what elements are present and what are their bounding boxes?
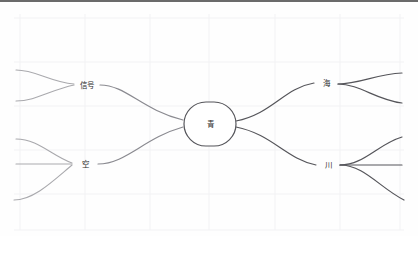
- node-signal[interactable]: 信号: [80, 80, 94, 90]
- edges-left-leaves-to-signal: [16, 70, 74, 101]
- node-sky[interactable]: 空: [82, 159, 89, 169]
- node-label-signal: 信号: [80, 80, 94, 90]
- diagram-screenshot: 青 信号 空 海 川: [0, 0, 418, 258]
- node-sea[interactable]: 海: [323, 78, 331, 88]
- node-label-sky: 空: [82, 159, 89, 169]
- center-node-label: 青: [207, 119, 215, 129]
- tree-diagram-svg: 青 信号 空 海 川: [0, 4, 418, 236]
- node-label-river: 川: [325, 161, 332, 170]
- diagram-canvas: 青 信号 空 海 川: [0, 4, 418, 236]
- node-river[interactable]: 川: [325, 161, 332, 170]
- edges-sea-to-right-leaves: [338, 73, 402, 103]
- edge-signal-to-center: [100, 85, 183, 120]
- node-label-sea: 海: [323, 78, 331, 88]
- center-node[interactable]: 青: [184, 102, 236, 146]
- top-rule: [0, 0, 418, 2]
- edge-center-to-river: [236, 127, 316, 165]
- edges-river-to-right-leaves: [340, 137, 404, 200]
- edge-sky-to-center: [98, 127, 183, 164]
- edges-left-leaves-to-sky: [14, 139, 72, 200]
